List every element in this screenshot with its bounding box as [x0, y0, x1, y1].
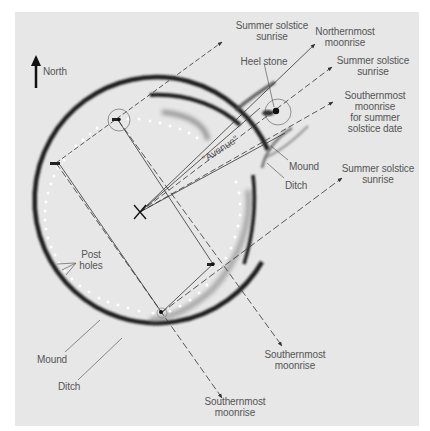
label-ditch-left: Ditch: [58, 381, 80, 392]
label-right-summer-sunrise: Summer solstice sunrise: [328, 163, 428, 185]
label-southernmost-moonrise-bottom: Southernmost moonrise: [190, 396, 280, 418]
label-mound-right: Mound: [289, 161, 319, 172]
label-southernmost-moonrise-summer: Southernmost moonrise for summer solstic…: [330, 90, 420, 134]
stonehenge-diagram: "Avenue" North Summer solstice sunrise N…: [0, 0, 430, 431]
label-ditch-right: Ditch: [285, 180, 307, 191]
label-mound-left: Mound: [37, 354, 67, 365]
label-northernmost-moonrise: Northernmost moonrise: [305, 26, 385, 48]
north-label: North: [43, 66, 67, 77]
label-southernmost-moonrise-center: Southernmost moonrise: [250, 349, 340, 371]
label-heel-stone: Heel stone: [234, 56, 294, 67]
label-post-holes: Post holes: [76, 249, 106, 271]
label-summer-sunrise-heel: Summer solstice sunrise: [323, 55, 423, 77]
